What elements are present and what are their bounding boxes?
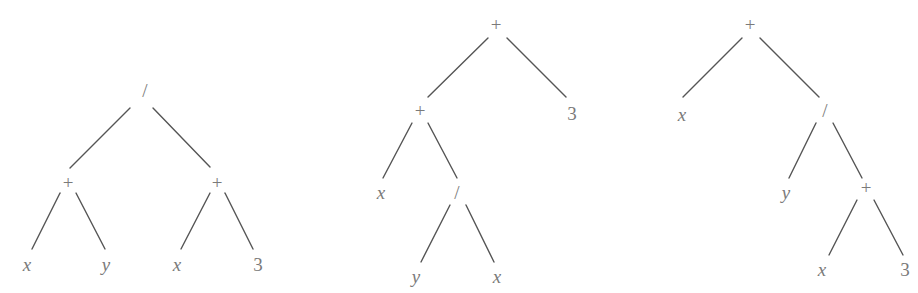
expression-tree-1: /++xyx3	[22, 80, 263, 275]
tree-edge	[466, 205, 494, 262]
variable-node: x	[817, 259, 827, 280]
plus-operator-node: +	[491, 14, 502, 35]
variable-node: y	[100, 254, 111, 275]
plus-operator-node: +	[415, 100, 426, 121]
plus-operator-node: +	[63, 172, 74, 193]
variable-node: y	[780, 182, 791, 203]
tree-edge	[874, 200, 903, 255]
variable-node: x	[677, 104, 687, 125]
plus-operator-node: +	[861, 177, 872, 198]
constant-node: 3	[567, 103, 577, 124]
variable-node: x	[22, 254, 32, 275]
tree-edge	[683, 38, 742, 97]
tree-edge	[428, 123, 457, 178]
tree-edge	[383, 123, 412, 178]
tree-edge	[76, 193, 105, 249]
tree-edge	[760, 38, 819, 97]
variable-node: x	[172, 254, 182, 275]
divide-operator-node: /	[822, 100, 828, 121]
expression-trees-diagram: /++xyx3 ++3x/yx +x/y+x3	[0, 0, 918, 293]
expression-tree-3: +x/y+x3	[677, 14, 910, 280]
variable-node: x	[492, 266, 502, 287]
tree-edge	[428, 38, 488, 97]
constant-node: 3	[253, 254, 263, 275]
divide-operator-node: /	[454, 182, 460, 203]
tree-edge	[507, 38, 566, 97]
expression-tree-2: ++3x/yx	[376, 14, 577, 287]
plus-operator-node: +	[212, 172, 223, 193]
divide-operator-node: /	[142, 80, 148, 101]
plus-operator-node: +	[745, 14, 756, 35]
tree-edge	[789, 123, 816, 178]
tree-edge	[829, 200, 857, 255]
tree-edge	[32, 193, 60, 249]
constant-node: 3	[900, 259, 910, 280]
variable-node: y	[410, 266, 421, 287]
tree-edge	[833, 123, 862, 178]
tree-edge	[153, 108, 210, 167]
tree-edge	[421, 205, 450, 262]
variable-node: x	[376, 182, 386, 203]
tree-edge	[70, 108, 130, 168]
tree-edge	[225, 193, 253, 249]
tree-edge	[181, 193, 210, 249]
